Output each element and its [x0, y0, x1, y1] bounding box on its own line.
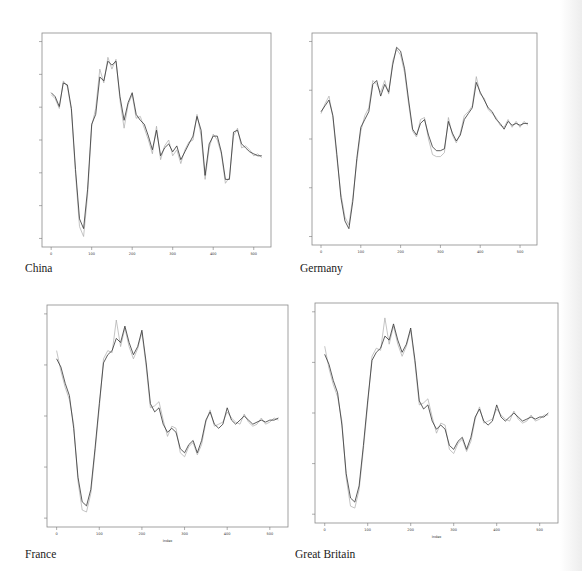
- x-tick-label: 300: [450, 528, 457, 532]
- caption-germany: Germany: [300, 262, 343, 274]
- plot-svg: 0100200300400500Index: [0, 0, 582, 571]
- caption-china: China: [25, 262, 52, 274]
- x-tick-label: 200: [407, 528, 414, 532]
- x-tick-label: 500: [536, 528, 543, 532]
- x-axis-label: Index: [432, 535, 442, 539]
- caption-france: France: [25, 548, 56, 560]
- caption-great-britain: Great Britain: [295, 548, 355, 560]
- x-tick-label: 100: [364, 528, 371, 532]
- x-tick-label: 400: [493, 528, 500, 532]
- series-line-fitted: [325, 318, 549, 508]
- x-tick-label: 0: [324, 528, 326, 532]
- plot-frame: [315, 303, 558, 523]
- chart-great-britain: 0100200300400500Index: [0, 0, 582, 571]
